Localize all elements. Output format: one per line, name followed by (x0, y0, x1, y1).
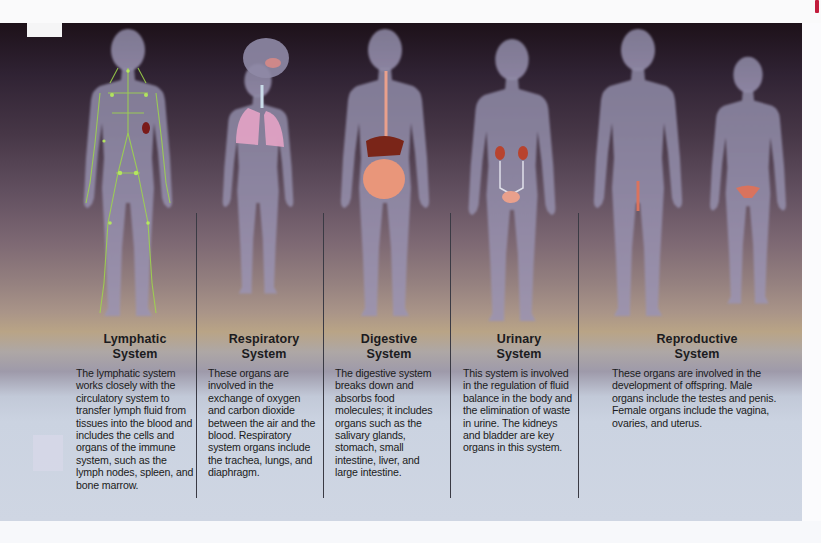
divider-2 (323, 213, 324, 498)
digestive-description: The digestive system breaks down and abs… (335, 367, 443, 479)
respiratory-system-panel: Respiratory System These organs are invo… (208, 332, 320, 479)
reproductive-female-body-figure (710, 57, 786, 304)
right-kidney-icon (518, 146, 528, 160)
page-edge-mark (815, 0, 819, 13)
urinary-description: This system is involved in the regulatio… (463, 367, 575, 454)
intestines-icon (363, 159, 405, 199)
bladder-icon (502, 191, 520, 203)
reproductive-system-panel: Reproductive System These organs are inv… (612, 332, 782, 429)
respiratory-body-figure (223, 38, 294, 293)
urinary-system-panel: Urinary System This system is involved i… (463, 332, 575, 454)
organ-systems-figure: Lymphatic System The lymphatic system wo… (0, 23, 802, 521)
lymphatic-body-figure (84, 29, 172, 316)
lymphatic-description: The lymphatic system works closely with … (76, 367, 194, 491)
reproductive-male-body-figure (594, 29, 682, 316)
respiratory-title: Respiratory System (208, 332, 320, 362)
lymphatic-system-panel: Lymphatic System The lymphatic system wo… (76, 332, 194, 491)
divider-4 (578, 213, 579, 498)
reproductive-description: These organs are involved in the develop… (612, 367, 782, 429)
divider-3 (450, 213, 451, 498)
divider-1 (196, 213, 197, 498)
left-kidney-icon (495, 146, 505, 160)
respiratory-description: These organs are involved in the exchang… (208, 367, 320, 479)
urinary-title: Urinary System (463, 332, 575, 362)
page-bleed-bottom (0, 521, 821, 543)
liver-icon (366, 136, 404, 157)
digestive-system-panel: Digestive System The digestive system br… (335, 332, 443, 479)
urinary-body-figure (469, 39, 556, 321)
digestive-body-figure (341, 29, 429, 316)
page-bleed-top (0, 0, 821, 23)
page-smudge (33, 435, 63, 471)
lymphatic-title: Lymphatic System (76, 332, 194, 362)
body-illustrations (0, 23, 802, 323)
digestive-title: Digestive System (335, 332, 443, 362)
reproductive-title: Reproductive System (612, 332, 782, 362)
spleen-icon (142, 122, 150, 134)
